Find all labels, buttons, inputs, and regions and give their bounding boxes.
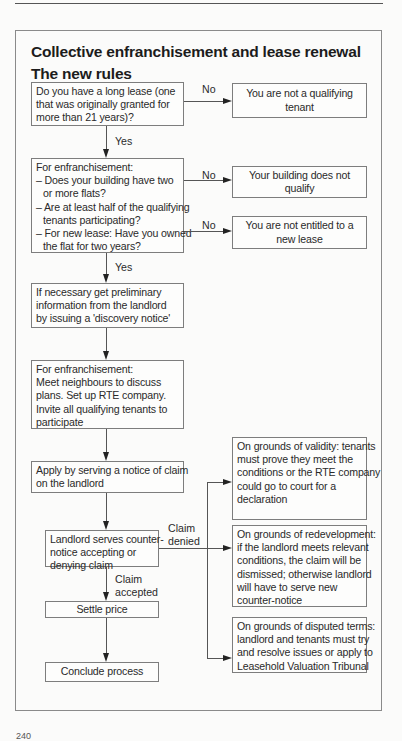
text-line: If necessary get preliminary [36,286,179,299]
connector-branch-trunk [207,482,208,658]
text-line: could go to court for a [237,480,362,493]
node-enfranchisement-questions: For enfranchisement: – Does your buildin… [31,158,184,253]
text-line: You are not a qualifying [246,87,353,100]
text-line: conditions or the RTE company [237,466,362,479]
arrow-down-icon [103,592,109,601]
text-line: For enfranchisement: [36,161,179,174]
text-line: – Are at least half of the qualifying [36,201,179,214]
text-line: Claim [115,573,158,586]
text-line: that was originally granted for [36,98,179,111]
text-line: You are not entitled to a [246,219,354,232]
arrow-down-icon [103,351,109,360]
arrow-down-icon [103,149,109,158]
page-number: 240 [16,731,31,741]
arrow-right-icon [223,98,232,104]
text-line: plans. Set up RTE company. [36,389,179,402]
edge-label-no: No [202,219,216,232]
text-line: On grounds of validity: tenants [237,440,362,453]
text-line: conditions, the claim will be [237,554,362,567]
text-line: notice accepting or [50,546,154,559]
node-building-not-qualify: Your building does not qualify [232,166,367,198]
connector-yes1 [106,126,107,150]
text-line: Your building does not [249,169,350,182]
node-settle-price: Settle price [45,601,159,618]
arrow-right-icon [223,177,232,183]
text-line: Invite all qualifying tenants to [36,403,179,416]
edge-label-claim-denied: Claim denied [168,522,200,548]
connector [106,493,107,522]
node-not-entitled: You are not entitled to a new lease [232,216,367,249]
text-line: tenant [246,101,353,114]
text-line: Do you have a long lease (one [36,85,179,98]
arrow-down-icon [103,521,109,530]
text-line: Settle price [76,603,127,616]
arrow-right-icon [223,228,232,234]
node-meet-neighbours: For enfranchisement: Meet neighbours to … [31,360,184,429]
text-line: dismissed; otherwise landlord [237,568,362,581]
arrow-down-icon [103,653,109,662]
arrow-right-icon [223,545,232,551]
text-line: new lease [246,233,354,246]
node-not-qualifying-tenant: You are not a qualifying tenant [232,83,367,118]
text-line: participate [36,416,179,429]
text-line: if the landlord meets relevant [237,541,362,554]
node-grounds-validity: On grounds of validity: tenants must pro… [232,437,367,520]
text-line: more than 21 years)? [36,111,179,124]
edge-label-yes: Yes [115,261,132,274]
node-counter-notice: Landlord serves counter- notice acceptin… [45,530,159,567]
arrow-down-icon [103,274,109,283]
connector-yes2 [106,253,107,275]
text-line: accepted [115,586,158,599]
text-line: denied [168,535,200,548]
connector-no1 [184,101,224,102]
edge-label-claim-accepted: Claim accepted [115,573,158,599]
arrow-down-icon [103,452,109,461]
node-notice-of-claim: Apply by serving a notice of claim on th… [31,461,184,493]
text-line: declaration [237,493,362,506]
text-line: landlord and tenants must try [237,633,362,646]
edge-label-no: No [202,169,216,182]
connector-claim-denied [159,548,225,549]
text-line: Landlord serves counter- [50,533,154,546]
top-rule [15,3,383,4]
text-line: Apply by serving a notice of claim [36,464,179,477]
text-line: by issuing a 'discovery notice' [36,312,179,325]
text-line: the flat for two years? [36,240,179,253]
arrow-right-icon [223,479,232,485]
text-line: On grounds of redevelopment: [237,528,362,541]
diagram-title: Collective enfranchisement and lease ren… [31,42,361,62]
text-line: Claim [168,522,200,535]
node-discovery-notice: If necessary get preliminary information… [31,283,184,328]
text-line: tenants participating? [36,214,179,227]
connector-claim-accepted [106,567,107,593]
connector [106,618,107,654]
text-line: – For new lease: Have you owned [36,227,179,240]
text-line: On grounds of disputed terms: [237,620,362,633]
arrow-right-icon [223,655,232,661]
text-line: or more flats? [36,187,179,200]
text-line: denying claim [50,559,154,572]
diagram-subtitle: The new rules [31,64,132,84]
edge-label-no: No [202,83,216,96]
node-long-lease-question: Do you have a long lease (one that was o… [31,82,184,126]
text-line: – Does your building have two [36,174,179,187]
edge-label-yes: Yes [115,135,132,148]
node-conclude-process: Conclude process [45,662,159,682]
connector [106,429,107,453]
node-grounds-redevelopment: On grounds of redevelopment: if the land… [232,525,367,607]
node-grounds-disputed-terms: On grounds of disputed terms: landlord a… [232,617,367,673]
text-line: Meet neighbours to discuss [36,376,179,389]
text-line: Conclude process [61,665,143,678]
text-line: counter-notice [237,594,362,607]
text-line: and resolve issues or apply to [237,646,362,659]
connector [106,328,107,352]
text-line: For enfranchisement: [36,363,179,376]
text-line: will have to serve new [237,581,362,594]
text-line: Leasehold Valuation Tribunal [237,660,362,673]
text-line: on the landlord [36,477,179,490]
text-line: must prove they meet the [237,453,362,466]
text-line: qualify [249,182,350,195]
text-line: information from the landlord [36,299,179,312]
